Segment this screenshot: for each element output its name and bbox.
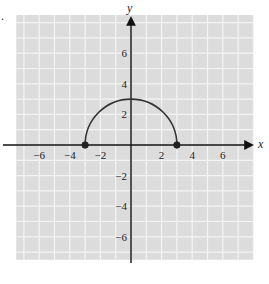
y-tick-label: 6 bbox=[122, 47, 128, 59]
y-tick-label: 2 bbox=[122, 108, 128, 120]
x-axis-label: x bbox=[257, 137, 264, 151]
y-tick-label: −6 bbox=[115, 231, 127, 243]
x-tick-label: 4 bbox=[189, 149, 195, 161]
endpoint-dot bbox=[82, 142, 88, 148]
x-tick-label: −6 bbox=[33, 149, 45, 161]
y-tick-label: −4 bbox=[115, 200, 127, 212]
plot-area: xy−6−4−2246642−2−4−6 bbox=[3, 1, 264, 263]
graph: xy−6−4−2246642−2−4−6 bbox=[0, 0, 269, 284]
x-tick-label: 6 bbox=[220, 149, 226, 161]
y-tick-label: −2 bbox=[115, 170, 127, 182]
x-tick-label: 2 bbox=[159, 149, 165, 161]
x-tick-label: −2 bbox=[95, 149, 107, 161]
endpoint-dot bbox=[174, 142, 180, 148]
y-tick-label: 4 bbox=[122, 78, 128, 90]
y-axis-label: y bbox=[126, 1, 133, 15]
x-tick-label: −4 bbox=[64, 149, 76, 161]
grid-background bbox=[16, 15, 253, 260]
